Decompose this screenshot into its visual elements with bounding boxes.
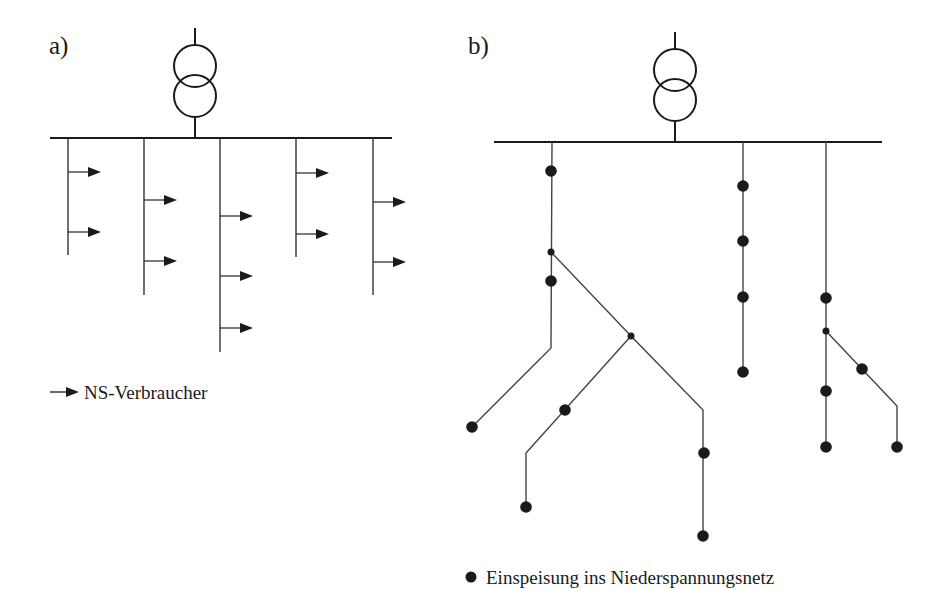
feeder-branch — [373, 138, 406, 295]
panel-b-feed-in-network — [466, 32, 903, 542]
feed-in-point-icon — [559, 404, 571, 416]
feed-in-point-icon — [891, 441, 903, 453]
feed-in-point-icon — [697, 530, 709, 542]
feed-in-point-icon — [737, 366, 749, 378]
feeder-line — [526, 336, 631, 507]
consumer-arrow-icon — [220, 323, 253, 333]
transformer-icon — [174, 28, 216, 138]
feed-in-point-icon — [545, 165, 557, 177]
feed-in-point-icon — [820, 292, 832, 304]
feed-in-point-icon — [466, 421, 478, 433]
junction-node — [548, 249, 555, 256]
feeder-branch — [220, 138, 253, 352]
feed-in-point-icon — [820, 441, 832, 453]
panel-a-label: a) — [49, 33, 68, 58]
consumer-arrow-icon — [68, 227, 101, 237]
network-diagram — [0, 0, 937, 589]
feed-in-point-icon — [698, 447, 710, 459]
consumer-arrow-icon — [296, 168, 329, 178]
legend-consumer-label: NS-Verbraucher — [84, 383, 207, 402]
feeder-branch — [68, 138, 101, 255]
consumer-arrow-icon — [68, 167, 101, 177]
junction-node — [628, 333, 635, 340]
feeder-branch — [144, 138, 177, 295]
panel-b-label: b) — [468, 33, 489, 58]
feeder-line — [826, 331, 897, 447]
consumer-arrow-icon — [373, 197, 406, 207]
feeder-branch — [296, 138, 329, 257]
legend-feed-in-label: Einspeisung ins Niederspannungsnetz — [486, 568, 774, 587]
feed-in-point-icon — [820, 385, 832, 397]
consumer-arrow-icon — [144, 195, 177, 205]
consumer-arrow-icon — [373, 257, 406, 267]
feeder-line — [551, 252, 703, 536]
feed-in-point-icon — [737, 235, 749, 247]
panel-a-radial-consumer-network — [50, 28, 406, 352]
feed-in-point-icon — [737, 180, 749, 192]
consumer-arrow-icon — [220, 271, 253, 281]
transformer-icon — [654, 32, 696, 142]
consumer-arrow-icon — [220, 211, 253, 221]
feed-in-point-icon — [545, 275, 557, 287]
consumer-arrow-icon — [296, 229, 329, 239]
feed-in-point-icon — [737, 291, 749, 303]
feed-in-point-icon — [520, 501, 532, 513]
legend-dot-icon — [466, 572, 477, 583]
consumer-arrow-icon — [144, 256, 177, 266]
feeder-line — [472, 142, 552, 427]
feed-in-point-icon — [856, 363, 868, 375]
legend-arrow-icon — [50, 387, 79, 397]
junction-node — [823, 328, 830, 335]
